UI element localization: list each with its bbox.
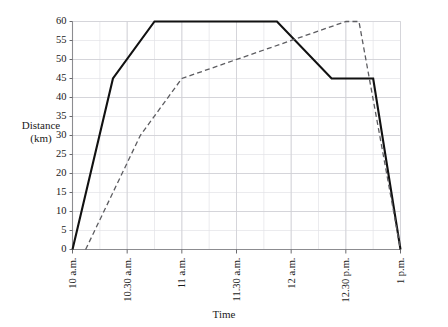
y-axis-title-line1: Distance [22,119,61,131]
chart-canvas: 051015202530354045505560 10 a.m.10.30 a.… [0,0,448,327]
x-tick-label: 10 a.m. [67,258,78,289]
y-tick-label: 20 [56,167,67,178]
y-tick-label: 10 [56,205,67,216]
x-tick-label: 10.30 a.m. [122,258,133,302]
y-tick-label: 60 [56,15,67,26]
y-tick-label: 55 [56,34,67,45]
y-tick-label: 5 [61,224,66,235]
x-axis-tick-labels: 10 a.m.10.30 a.m.11 a.m.11.30 a.m.12 a.m… [67,258,406,303]
y-tick-label: 40 [56,91,67,102]
x-tick-label: 1 p.m. [395,258,406,285]
major-gridlines [73,22,401,250]
x-tick-label: 12 a.m. [286,258,297,289]
x-axis-ticks [73,250,401,254]
x-tick-label: 12.30 p.m. [340,258,351,303]
y-axis-title-line2: (km) [30,132,52,145]
y-axis-tick-labels: 051015202530354045505560 [56,15,67,254]
x-tick-label: 11.30 a.m. [231,258,242,302]
y-tick-label: 25 [56,148,67,159]
y-tick-label: 15 [56,186,67,197]
y-tick-label: 50 [56,53,67,64]
x-tick-label: 11 a.m. [176,258,187,289]
distance-time-chart-figure: 051015202530354045505560 10 a.m.10.30 a.… [0,0,448,327]
y-tick-label: 45 [56,72,67,83]
y-tick-label: 30 [56,129,67,140]
y-tick-label: 0 [61,243,66,254]
x-axis-title: Time [213,308,236,320]
